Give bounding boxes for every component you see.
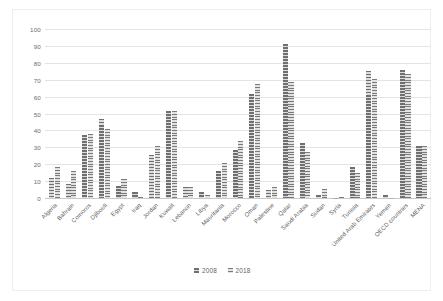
- bar-2018-lebanon[interactable]: [188, 187, 193, 198]
- y-axis-tick-10: 10: [34, 178, 41, 185]
- bar-2018-united-arab-emirates[interactable]: [372, 79, 377, 198]
- bar-group: [246, 29, 263, 198]
- bar-2018-sudan[interactable]: [322, 189, 327, 198]
- bar-2018-qatar[interactable]: [288, 82, 293, 198]
- bar-2018-jordan[interactable]: [155, 146, 160, 198]
- bar-group: [263, 29, 280, 198]
- y-axis-tick-30: 30: [34, 144, 41, 151]
- bar-group: [113, 29, 130, 198]
- bar-2008-comoros[interactable]: [82, 135, 87, 198]
- x-axis-label-jordan: Jordan: [141, 202, 159, 220]
- bar-2018-comoros[interactable]: [88, 134, 93, 198]
- bar-2018-iraq[interactable]: [138, 197, 143, 198]
- bar-2018-djibouti[interactable]: [105, 129, 110, 198]
- bar-2008-kuwait[interactable]: [166, 111, 171, 198]
- x-axis-label-oecd-countries: OECD countries: [373, 202, 409, 238]
- bar-2018-syria[interactable]: [339, 197, 344, 198]
- bar-series-container: [45, 29, 431, 198]
- bar-group: [213, 29, 230, 198]
- bar-group: [297, 29, 314, 198]
- bar-group: [63, 29, 80, 198]
- x-axis-label-mena: MENA: [409, 202, 426, 219]
- bar-group: [196, 29, 213, 198]
- bar-2008-egypt[interactable]: [116, 186, 121, 198]
- bar-2018-tunisia[interactable]: [355, 173, 360, 198]
- y-axis-tick-80: 80: [34, 59, 41, 66]
- legend-item-2008[interactable]: 2008: [194, 267, 217, 274]
- bar-2008-algeria[interactable]: [49, 178, 54, 198]
- y-axis-tick-100: 100: [30, 26, 41, 33]
- bar-2008-syria[interactable]: [333, 198, 338, 199]
- bar-group: [313, 29, 330, 198]
- bar-2008-palestine[interactable]: [266, 190, 271, 198]
- chart-container: 1009080706050403020100 AlgeriaBahrainCom…: [12, 9, 431, 291]
- x-axis-label-sudan: Sudan: [309, 202, 326, 219]
- bar-2018-yemen[interactable]: [389, 198, 394, 199]
- bar-group: [280, 29, 297, 198]
- bar-2018-algeria[interactable]: [55, 167, 60, 198]
- bar-group: [130, 29, 147, 198]
- y-axis-tick-60: 60: [34, 93, 41, 100]
- y-axis-tick-50: 50: [34, 110, 41, 117]
- bar-2008-bahrain[interactable]: [66, 184, 71, 198]
- bar-2008-saudi-arabia[interactable]: [300, 143, 305, 198]
- legend-item-2018[interactable]: 2018: [228, 267, 251, 274]
- chart-legend: 2008 2018: [13, 267, 432, 274]
- bar-group: [163, 29, 180, 198]
- bar-2008-tunisia[interactable]: [350, 167, 355, 198]
- gridline-0: 0: [45, 198, 431, 199]
- y-axis-tick-40: 40: [34, 127, 41, 134]
- x-axis-label-egypt: Egypt: [110, 202, 125, 217]
- bar-2008-libya[interactable]: [199, 192, 204, 198]
- x-axis-label-djibouti: Djibouti: [90, 202, 109, 221]
- bar-2008-qatar[interactable]: [283, 44, 288, 198]
- bar-2018-saudi-arabia[interactable]: [305, 152, 310, 198]
- bar-group: [347, 29, 364, 198]
- legend-swatch-2008: [194, 268, 199, 273]
- bar-group: [79, 29, 96, 198]
- bar-group: [46, 29, 63, 198]
- bar-group: [380, 29, 397, 198]
- bar-2018-oecd-countries[interactable]: [405, 74, 410, 198]
- bar-2008-iraq[interactable]: [132, 192, 137, 198]
- bar-2018-mena[interactable]: [422, 146, 427, 198]
- bar-2008-sudan[interactable]: [316, 195, 321, 198]
- bar-group: [363, 29, 380, 198]
- bar-2018-palestine[interactable]: [272, 187, 277, 198]
- bar-group: [413, 29, 430, 198]
- bar-2018-bahrain[interactable]: [71, 171, 76, 198]
- y-axis-tick-20: 20: [34, 161, 41, 168]
- bar-2018-mauritania[interactable]: [222, 163, 227, 198]
- bar-2018-libya[interactable]: [205, 195, 210, 198]
- bar-2008-mauritania[interactable]: [216, 171, 221, 198]
- legend-label-2008: 2008: [202, 267, 217, 274]
- y-axis-tick-0: 0: [37, 195, 41, 202]
- bar-2008-lebanon[interactable]: [183, 187, 188, 198]
- bar-2008-djibouti[interactable]: [99, 119, 104, 198]
- bar-2008-mena[interactable]: [416, 146, 421, 198]
- bar-2008-morocco[interactable]: [233, 150, 238, 198]
- bar-2018-morocco[interactable]: [238, 141, 243, 198]
- bar-2018-oman[interactable]: [255, 84, 260, 198]
- bar-2008-yemen[interactable]: [383, 195, 388, 198]
- bar-2008-oman[interactable]: [249, 94, 254, 198]
- bar-2018-egypt[interactable]: [121, 179, 126, 198]
- bar-group: [146, 29, 163, 198]
- y-axis-tick-70: 70: [34, 76, 41, 83]
- x-axis-label-syria: Syria: [328, 202, 342, 216]
- bar-group: [330, 29, 347, 198]
- legend-label-2018: 2018: [236, 267, 251, 274]
- y-axis-tick-90: 90: [34, 42, 41, 49]
- bar-2008-oecd-countries[interactable]: [400, 70, 405, 198]
- x-axis-label-iraq: Iraq: [130, 202, 142, 214]
- bar-2008-jordan[interactable]: [149, 155, 154, 198]
- legend-swatch-2018: [228, 268, 233, 273]
- bar-2008-united-arab-emirates[interactable]: [366, 71, 371, 198]
- bar-group: [96, 29, 113, 198]
- plot-area: 1009080706050403020100: [45, 29, 431, 198]
- bar-group: [180, 29, 197, 198]
- bar-group: [397, 29, 414, 198]
- bar-group: [230, 29, 247, 198]
- bar-2018-kuwait[interactable]: [172, 111, 177, 198]
